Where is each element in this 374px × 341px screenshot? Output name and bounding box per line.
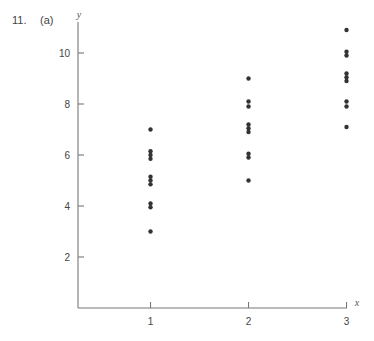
data-point bbox=[344, 104, 348, 108]
data-point bbox=[344, 79, 348, 83]
data-point bbox=[344, 125, 348, 129]
data-point bbox=[246, 130, 250, 134]
data-point bbox=[246, 122, 250, 126]
x-tick-label: 3 bbox=[344, 316, 350, 327]
scatter-plot: 246810123yx bbox=[0, 0, 374, 341]
data-point bbox=[344, 99, 348, 103]
y-tick-label: 6 bbox=[64, 150, 70, 161]
data-point bbox=[246, 178, 250, 182]
y-tick-label: 4 bbox=[64, 201, 70, 212]
data-point bbox=[344, 75, 348, 79]
data-points bbox=[148, 28, 348, 234]
axes: 246810123yx bbox=[59, 9, 360, 327]
data-point bbox=[148, 153, 152, 157]
data-point bbox=[246, 76, 250, 80]
y-axis-label: y bbox=[76, 9, 82, 20]
data-point bbox=[246, 155, 250, 159]
data-point bbox=[148, 127, 152, 131]
data-point bbox=[344, 28, 348, 32]
data-point bbox=[344, 53, 348, 57]
data-point bbox=[148, 182, 152, 186]
data-point bbox=[148, 229, 152, 233]
data-point bbox=[148, 201, 152, 205]
x-tick-label: 1 bbox=[148, 316, 154, 327]
data-point bbox=[148, 205, 152, 209]
data-point bbox=[246, 104, 250, 108]
data-point bbox=[344, 50, 348, 54]
y-tick-label: 10 bbox=[59, 48, 71, 59]
data-point bbox=[246, 126, 250, 130]
y-tick-label: 2 bbox=[64, 252, 70, 263]
data-point bbox=[148, 178, 152, 182]
x-tick-label: 2 bbox=[246, 316, 252, 327]
data-point bbox=[246, 152, 250, 156]
data-point bbox=[148, 174, 152, 178]
data-point bbox=[246, 99, 250, 103]
y-tick-label: 8 bbox=[64, 99, 70, 110]
x-axis-label: x bbox=[354, 297, 360, 308]
data-point bbox=[148, 149, 152, 153]
data-point bbox=[148, 157, 152, 161]
data-point bbox=[344, 71, 348, 75]
